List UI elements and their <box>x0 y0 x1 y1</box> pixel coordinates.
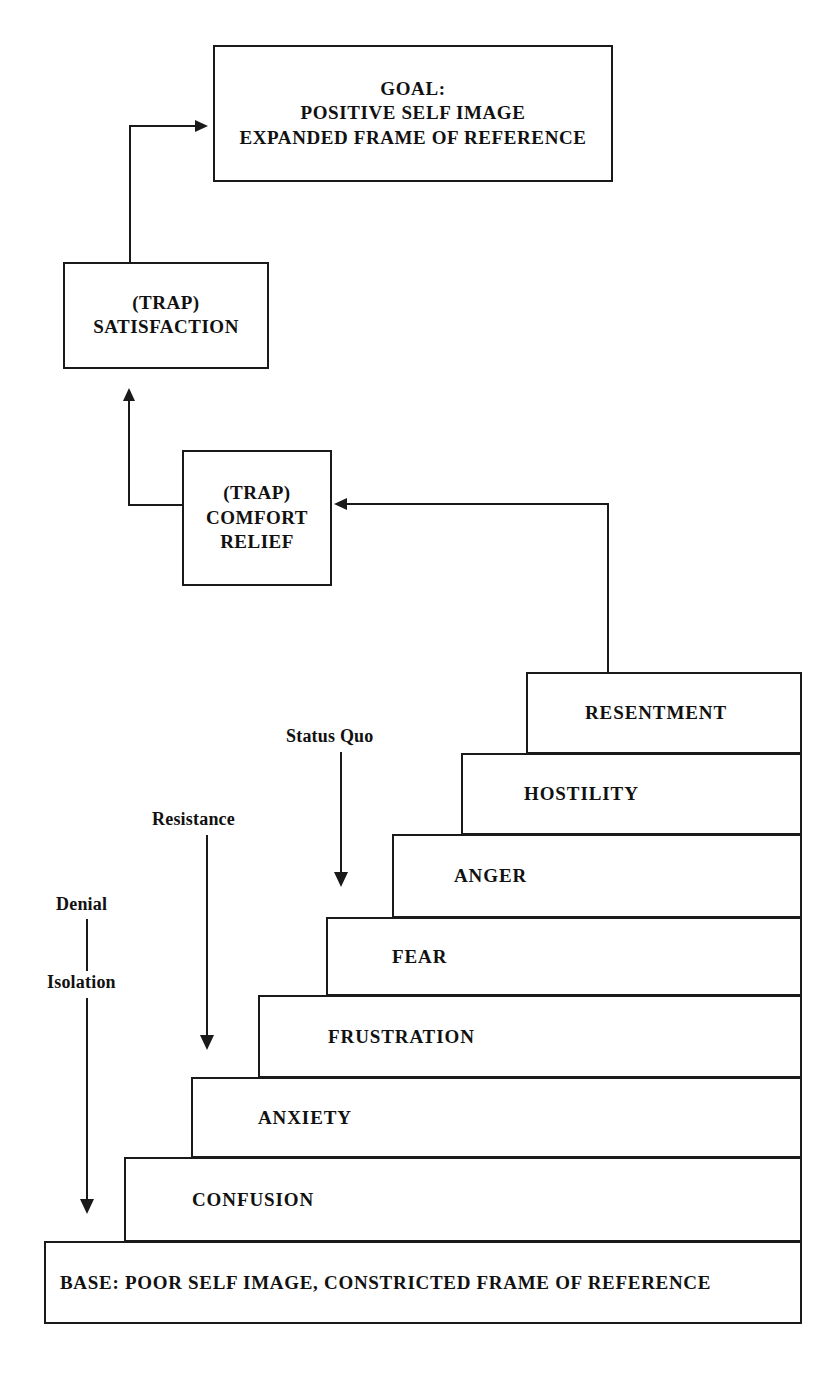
trap-satisfaction-text: (TRAP) SATISFACTION <box>65 291 267 340</box>
goal-line-2: POSITIVE SELF IMAGE <box>215 101 611 126</box>
connector-satisfaction-to-goal-vertical <box>129 125 131 263</box>
step-label-base: BASE: POOR SELF IMAGE, CONSTRICTED FRAME… <box>60 1272 711 1294</box>
trap-comfort-line-3: RELIEF <box>184 530 330 555</box>
annotation-arrow-denial-shaft <box>86 919 88 971</box>
connector-resentment-to-comfort-vertical <box>607 503 609 673</box>
trap-comfort-line-2: COMFORT <box>184 506 330 531</box>
arrowhead-into-satisfaction-box <box>123 388 135 401</box>
annotation-arrowhead-status-quo <box>334 872 348 887</box>
connector-comfort-to-satisfaction-vertical <box>128 400 130 506</box>
connector-comfort-to-satisfaction-horizontal <box>128 504 184 506</box>
step-label-fear: FEAR <box>392 946 447 968</box>
trap-comfort-text: (TRAP) COMFORT RELIEF <box>184 481 330 555</box>
annotation-arrow-resistance-shaft <box>206 835 208 1037</box>
step-label-frustration: FRUSTRATION <box>328 1026 475 1048</box>
step-label-anger: ANGER <box>454 865 527 887</box>
connector-satisfaction-to-goal-horizontal <box>129 125 197 127</box>
trap-comfort-line-1: (TRAP) <box>184 481 330 506</box>
step-label-resentment: RESENTMENT <box>585 702 727 724</box>
goal-box-text: GOAL: POSITIVE SELF IMAGE EXPANDED FRAME… <box>215 76 611 150</box>
staircase-step-frustration: FRUSTRATION <box>258 995 802 1078</box>
staircase-step-anger: ANGER <box>392 834 802 918</box>
staircase-step-hostility: HOSTILITY <box>461 753 802 835</box>
step-label-anxiety: ANXIETY <box>258 1107 352 1129</box>
annotation-label-isolation: Isolation <box>47 972 116 993</box>
trap-satisfaction-box: (TRAP) SATISFACTION <box>63 262 269 369</box>
arrowhead-into-comfort-box <box>334 498 347 510</box>
trap-satisfaction-line-2: SATISFACTION <box>65 316 267 341</box>
annotation-arrowhead-isolation <box>80 1199 94 1214</box>
connector-resentment-to-comfort-horizontal <box>347 503 609 505</box>
staircase-step-confusion: CONFUSION <box>124 1157 802 1242</box>
step-label-hostility: HOSTILITY <box>524 783 639 805</box>
step-label-confusion: CONFUSION <box>192 1189 314 1211</box>
staircase-base-row: BASE: POOR SELF IMAGE, CONSTRICTED FRAME… <box>44 1241 802 1324</box>
arrowhead-into-goal-box <box>195 120 208 132</box>
annotation-arrow-isolation-shaft <box>86 998 88 1201</box>
trap-satisfaction-line-1: (TRAP) <box>65 291 267 316</box>
annotation-label-resistance: Resistance <box>152 809 235 830</box>
staircase-step-fear: FEAR <box>326 917 802 996</box>
annotation-label-denial: Denial <box>56 894 107 915</box>
annotation-label-status-quo: Status Quo <box>286 726 374 747</box>
goal-line-3: EXPANDED FRAME OF REFERENCE <box>215 126 611 151</box>
annotation-arrow-status-quo-shaft <box>340 752 342 874</box>
diagram-canvas: GOAL: POSITIVE SELF IMAGE EXPANDED FRAME… <box>0 0 840 1381</box>
goal-box: GOAL: POSITIVE SELF IMAGE EXPANDED FRAME… <box>213 45 613 182</box>
trap-comfort-box: (TRAP) COMFORT RELIEF <box>182 450 332 586</box>
annotation-arrowhead-resistance <box>200 1035 214 1050</box>
staircase-step-anxiety: ANXIETY <box>191 1077 802 1158</box>
goal-line-1: GOAL: <box>215 76 611 101</box>
staircase-step-resentment: RESENTMENT <box>526 672 802 754</box>
